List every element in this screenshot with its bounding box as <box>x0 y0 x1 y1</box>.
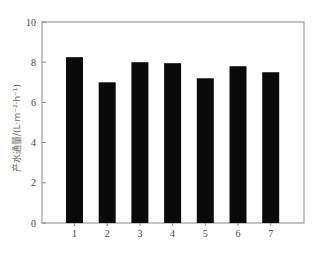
y-axis-ticks: 0246810 <box>26 17 46 229</box>
x-tick-label: 6 <box>236 228 241 239</box>
y-tick-label: 8 <box>31 57 36 68</box>
x-tick-label: 7 <box>268 228 273 239</box>
x-tick-label: 5 <box>203 228 208 239</box>
y-tick-label: 0 <box>31 218 36 229</box>
x-tick-label: 3 <box>137 228 142 239</box>
bar-4 <box>164 63 181 223</box>
y-tick-label: 2 <box>31 177 36 188</box>
x-tick-label: 1 <box>72 228 77 239</box>
bar-5 <box>197 78 214 223</box>
bar-2 <box>99 82 116 223</box>
bar-7 <box>262 72 279 223</box>
bar-6 <box>230 66 247 223</box>
y-tick-label: 10 <box>26 17 36 28</box>
x-tick-label: 2 <box>105 228 110 239</box>
bars <box>66 57 279 223</box>
bar-1 <box>66 57 83 223</box>
x-axis-ticks: 1234567 <box>72 223 273 239</box>
y-tick-label: 6 <box>31 97 36 108</box>
y-axis-label: 产水通量/(L·m⁻²·h⁻¹) <box>11 84 22 172</box>
y-tick-label: 4 <box>31 137 36 148</box>
x-tick-label: 4 <box>170 228 175 239</box>
bar-3 <box>131 62 148 223</box>
bar-chart: 0246810 1234567 产水通量/(L·m⁻²·h⁻¹) <box>0 0 322 255</box>
